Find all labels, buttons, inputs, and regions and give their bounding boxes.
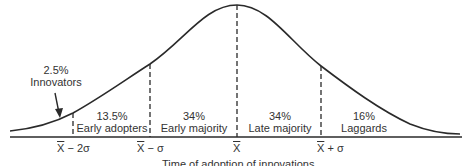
segment-name: Laggards bbox=[334, 122, 394, 134]
x-axis-caption: Time of adoption of innovations bbox=[162, 158, 314, 166]
segment-early-majority-label: 34% Early majority bbox=[156, 110, 232, 134]
mean-symbol: X bbox=[233, 142, 240, 154]
segment-percent: 16% bbox=[334, 110, 394, 122]
arrow-down-icon bbox=[55, 108, 63, 118]
segment-name: Innovators bbox=[28, 76, 84, 88]
segment-innovators-label: 2.5% Innovators bbox=[28, 64, 84, 88]
tick-suffix: − 2σ bbox=[64, 142, 89, 154]
segment-late-majority-label: 34% Late majority bbox=[242, 110, 318, 134]
diffusion-bell-curve-diagram: 2.5% Innovators 13.5% Early adopters 34%… bbox=[0, 0, 464, 166]
segment-percent: 34% bbox=[242, 110, 318, 122]
segment-percent: 13.5% bbox=[76, 110, 148, 122]
tick-mean-minus-sd: X − σ bbox=[137, 142, 164, 154]
segment-name: Early majority bbox=[156, 122, 232, 134]
tick-mean: X bbox=[233, 142, 240, 154]
segment-percent: 2.5% bbox=[28, 64, 84, 76]
tick-mean-minus-2sd: X − 2σ bbox=[57, 142, 90, 154]
segment-percent: 34% bbox=[156, 110, 232, 122]
tick-suffix: + σ bbox=[324, 142, 343, 154]
tick-mean-plus-sd: X + σ bbox=[317, 142, 344, 154]
segment-early-adopters-label: 13.5% Early adopters bbox=[76, 110, 148, 134]
segment-name: Late majority bbox=[242, 122, 318, 134]
segment-laggards-label: 16% Laggards bbox=[334, 110, 394, 134]
tick-suffix: − σ bbox=[144, 142, 163, 154]
segment-name: Early adopters bbox=[76, 122, 148, 134]
